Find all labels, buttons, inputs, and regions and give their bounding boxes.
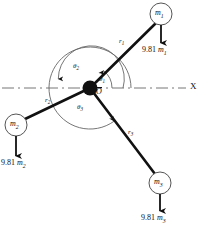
rotor-balancing-figure: m1 m2 m3 9.81 m1 9.81 m2 9.81 m3 r1 r2 r… bbox=[0, 0, 204, 227]
x-axis-label: X bbox=[190, 82, 197, 91]
angle-label-3: θ3 bbox=[77, 104, 83, 112]
mass-1-weight-label: 9.81 m1 bbox=[142, 46, 167, 56]
angle-label-2: θ2 bbox=[73, 63, 79, 71]
mass-2-label: m2 bbox=[10, 120, 19, 130]
radius-label-3: r3 bbox=[128, 129, 133, 137]
origin-label: O bbox=[96, 87, 102, 96]
radius-label-1: r1 bbox=[119, 38, 124, 46]
mass-3-label: m3 bbox=[154, 178, 163, 188]
mass-3-weight-label: 9.81 m3 bbox=[141, 214, 166, 224]
figure-canvas bbox=[0, 0, 204, 227]
mass-2-weight-label: 9.81 m2 bbox=[1, 159, 26, 169]
radius-label-2: r2 bbox=[45, 97, 50, 105]
arm-3 bbox=[90, 88, 155, 174]
mass-1-label: m1 bbox=[155, 9, 164, 19]
angle-label-1: θ1 bbox=[99, 76, 105, 84]
